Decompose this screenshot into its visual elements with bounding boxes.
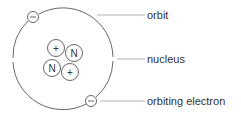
svg-text:+: + (53, 43, 59, 54)
electron-top (28, 12, 39, 23)
electron-bottom (86, 96, 97, 107)
svg-text:+: + (67, 67, 73, 78)
svg-text:N: N (48, 63, 55, 74)
neutron-particle: N (66, 45, 83, 62)
proton-particle: + (48, 40, 65, 57)
svg-text:N: N (70, 48, 77, 59)
orbit-ring (13, 8, 113, 110)
nucleus-label: nucleus (147, 53, 185, 65)
electron-label: orbiting electron (147, 95, 225, 107)
orbit-label: orbit (147, 9, 168, 21)
nucleus: + N N + (44, 40, 83, 81)
neutron-particle: N (44, 60, 61, 77)
proton-particle: + (62, 64, 79, 81)
